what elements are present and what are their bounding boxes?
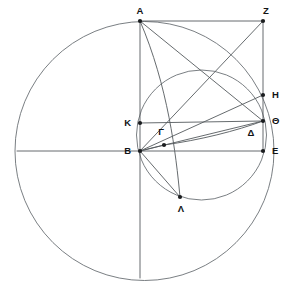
vertex-dot-Γ [162,143,166,147]
arcs-layer [140,21,263,197]
vertices-layer: AZHΘEΔKBΓΛ [124,5,279,214]
vertex-dot-K [138,121,142,125]
vertex-dot-B [138,149,142,153]
arc-A-lambda [140,21,180,197]
vertex-dot-A [138,19,142,23]
segment-A-theta [140,21,263,121]
vertex-label-Δ: Δ [248,127,255,138]
vertex-dot-Θ [261,119,265,123]
vertex-dot-Λ [178,195,182,199]
vertex-label-Λ: Λ [178,203,185,214]
geometry-diagram: AZHΘEΔKBΓΛ [0,0,289,288]
vertex-dot-E [261,149,265,153]
vertex-dot-H [261,93,265,97]
vertex-label-A: A [137,5,144,16]
segment-B-lambda [140,151,180,197]
vertex-dot-Z [261,19,265,23]
vertex-label-Θ: Θ [272,115,279,126]
geometry-canvas: AZHΘEΔKBΓΛ [0,0,289,288]
vertex-label-K: K [124,117,131,128]
vertex-label-E: E [272,145,278,156]
vertex-label-Γ: Γ [158,126,164,137]
vertex-label-Z: Z [263,5,269,16]
vertex-label-B: B [124,145,131,156]
vertex-label-H: H [272,89,279,100]
